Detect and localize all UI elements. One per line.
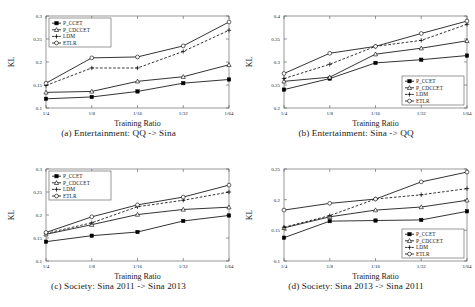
data-point-p_ccet [136, 90, 139, 93]
data-point-etlr [465, 19, 469, 23]
legend-c: P_CCETP_CDCCETLDMETLR [49, 171, 111, 200]
y-tick-label: 0.4 [273, 14, 280, 19]
y-tick-label: 0.3 [36, 14, 43, 19]
legend-marker-p_ccet [55, 175, 58, 178]
legend-d: P_CCETP_CDCCETLDMETLR [402, 229, 464, 258]
legend-label-ldm: LDM [63, 33, 75, 39]
legend-label-ldm: LDM [416, 244, 428, 250]
plot-area-b: 0.20.250.30.350.41/41/81/161/321/64Train… [238, 0, 475, 128]
data-point-p_ccet [44, 240, 47, 243]
figure-grid: 0.10.150.20.250.31/41/81/161/321/64Train… [0, 0, 475, 307]
data-point-etlr [227, 183, 231, 187]
y-axis-title: KL [245, 57, 254, 68]
x-tick-label: 1/64 [462, 264, 471, 269]
legend-label-etlr: ETLR [63, 193, 77, 199]
legend-marker-p_ccet [407, 80, 410, 83]
x-tick-label: 1/32 [179, 264, 188, 269]
data-point-ldm [419, 38, 423, 42]
data-point-p_ccet [227, 78, 230, 81]
data-point-p_ccet [419, 58, 422, 61]
y-tick-label: 0.2 [36, 60, 43, 65]
data-point-etlr [282, 208, 286, 212]
x-tick-label: 1/32 [179, 111, 188, 116]
y-tick-label: 0.25 [271, 167, 280, 172]
data-point-p_ccet [465, 210, 468, 213]
legend-label-p_ccet: P_CCET [63, 173, 83, 179]
x-tick-label: 1/16 [133, 264, 142, 269]
data-point-p_ccet [282, 236, 285, 239]
x-tick-label: 1/16 [133, 111, 142, 116]
x-axis-title: Training Ratio [114, 119, 161, 128]
x-tick-label: 1/4 [280, 111, 287, 116]
x-axis-title: Training Ratio [114, 272, 161, 281]
data-point-ldm [227, 28, 231, 32]
y-tick-label: 0.15 [33, 83, 42, 88]
data-point-etlr [44, 231, 48, 235]
data-point-ldm [227, 190, 231, 194]
y-tick-label: 0.15 [33, 236, 42, 241]
plot-area-c: 0.10.150.20.250.31/41/81/161/321/64Train… [0, 153, 237, 281]
data-point-ldm [419, 193, 423, 197]
chart-panel-a: 0.10.150.20.250.31/41/81/161/321/64Train… [0, 0, 237, 153]
y-tick-label: 0.2 [273, 198, 280, 203]
x-tick-label: 1/4 [280, 264, 287, 269]
y-tick-label: 0.3 [273, 60, 280, 65]
legend-label-p_ccet: P_CCET [416, 231, 436, 237]
data-point-p_ccet [227, 214, 230, 217]
legend-marker-etlr [407, 99, 411, 103]
legend-marker-etlr [55, 41, 59, 45]
data-point-p_ccet [465, 54, 468, 57]
data-point-ldm [135, 66, 139, 70]
data-point-etlr [282, 72, 286, 76]
data-point-p_ccet [373, 61, 376, 64]
y-tick-label: 0.25 [33, 37, 42, 42]
data-point-etlr [419, 180, 423, 184]
legend-label-p_cdccet: P_CDCCET [63, 180, 91, 186]
panel-caption-a: (a) Entertainment: QQ -> Sina [61, 128, 176, 139]
chart-panel-b: 0.20.250.30.350.41/41/81/161/321/64Train… [237, 0, 475, 153]
x-tick-label: 1/64 [225, 111, 234, 116]
data-point-etlr [44, 81, 48, 85]
x-tick-label: 1/32 [416, 264, 425, 269]
data-point-etlr [465, 170, 469, 174]
y-tick-label: 0.2 [36, 213, 43, 218]
x-tick-label: 1/4 [43, 264, 50, 269]
x-tick-label: 1/32 [416, 111, 425, 116]
legend-label-etlr: ETLR [63, 40, 77, 46]
chart-panel-c: 0.10.150.20.250.31/41/81/161/321/64Train… [0, 153, 237, 307]
legend-marker-etlr [407, 252, 411, 256]
plot-area-a: 0.10.150.20.250.31/41/81/161/321/64Train… [0, 0, 237, 128]
data-point-p_ccet [182, 219, 185, 222]
legend-label-ldm: LDM [63, 186, 75, 192]
y-tick-label: 0.3 [36, 167, 43, 172]
x-axis-title: Training Ratio [352, 119, 399, 128]
chart-panel-d: 0.10.150.20.251/41/81/161/321/64Training… [237, 153, 475, 307]
y-tick-label: 0.1 [36, 106, 43, 111]
data-point-etlr [136, 203, 140, 207]
legend-label-ldm: LDM [416, 91, 428, 97]
x-axis-title: Training Ratio [352, 272, 399, 281]
legend-a: P_CCETP_CDCCETLDMETLR [49, 18, 111, 47]
data-point-ldm [281, 76, 285, 80]
legend-label-p_ccet: P_CCET [63, 20, 83, 26]
y-tick-label: 0.25 [271, 83, 280, 88]
data-point-p_ccet [136, 230, 139, 233]
legend-marker-p_ccet [407, 233, 410, 236]
x-tick-label: 1/64 [462, 111, 471, 116]
data-point-etlr [373, 197, 377, 201]
x-tick-label: 1/16 [371, 111, 380, 116]
data-point-etlr [227, 20, 231, 24]
panel-caption-c: (c) Society: Sina 2011 -> Sina 2013 [51, 281, 186, 292]
data-point-etlr [373, 44, 377, 48]
plot-area-d: 0.10.150.20.251/41/81/161/321/64Training… [238, 153, 475, 281]
data-point-p_ccet [90, 95, 93, 98]
data-point-p_ccet [90, 234, 93, 237]
x-tick-label: 1/8 [89, 264, 96, 269]
legend-marker-p_ccet [55, 22, 58, 25]
data-point-p_ccet [182, 81, 185, 84]
y-tick-label: 0.2 [273, 106, 280, 111]
y-tick-label: 0.25 [33, 190, 42, 195]
y-tick-label: 0.1 [273, 259, 280, 264]
data-point-ldm [90, 66, 94, 70]
data-point-p_ccet [44, 97, 47, 100]
